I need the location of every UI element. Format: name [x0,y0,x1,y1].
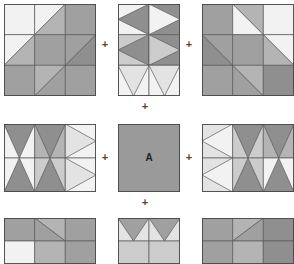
quilt-patch-solid [202,65,233,96]
quilt-patch-solid [263,241,294,264]
block-middle-left[interactable] [4,124,96,192]
plus-top-center-right-icon: + [184,39,194,50]
plus-top-left-center-icon: + [100,39,110,50]
block-top-right[interactable] [202,4,294,96]
block-top-right-canvas [202,4,294,96]
quilt-patch-solid [65,241,96,264]
quilt-patch-solid [65,4,96,35]
block-top-center-canvas [118,4,180,96]
quilt-patch-solid [4,241,35,264]
block-center-plain[interactable]: A [118,124,180,192]
quilt-patch-solid [35,35,66,66]
quilt-patch-solid [149,241,180,264]
block-top-center[interactable] [118,4,180,96]
quilt-patch-solid [4,65,35,96]
quilt-patch-solid [35,241,66,264]
block-top-left[interactable] [4,4,96,96]
quilt-patch-solid [202,241,233,264]
block-top-left-canvas [4,4,96,96]
quilt-patch-solid [263,4,294,35]
block-bottom-right-canvas [202,218,294,264]
quilt-patch-solid [4,4,35,35]
block-middle-left-canvas [4,124,96,192]
block-middle-right-canvas [202,124,294,192]
quilt-patch-solid [233,35,264,66]
plus-mid-center-right-icon: + [184,152,194,163]
quilt-patch-solid [65,65,96,96]
plus-row1-row2-icon: + [140,101,150,112]
quilt-patch-solid [263,218,294,241]
quilt-patch-solid [4,218,35,241]
center-block-label: A [118,153,180,163]
quilt-patch-solid [65,218,96,241]
quilt-patch-solid [202,218,233,241]
block-middle-right[interactable] [202,124,294,192]
quilt-patch-solid [118,241,149,264]
block-bottom-center[interactable] [118,218,180,264]
block-bottom-left-canvas [4,218,96,264]
quilt-patch-solid [263,65,294,96]
plus-mid-left-center-icon: + [100,152,110,163]
block-bottom-left[interactable] [4,218,96,264]
plus-row2-row3-icon: + [140,197,150,208]
block-bottom-center-canvas [118,218,180,264]
quilt-patch-solid [233,241,264,264]
quilt-patch-solid [202,4,233,35]
block-bottom-right[interactable] [202,218,294,264]
